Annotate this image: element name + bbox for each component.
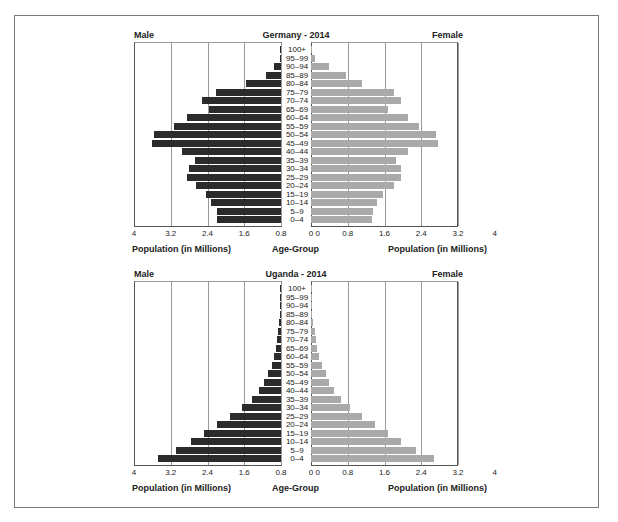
female-bar [311,421,375,428]
x-tick-male: 1.6 [239,468,250,477]
female-label: Female [432,269,463,279]
male-bar [191,438,281,445]
male-bar [280,311,281,318]
female-bar [311,438,401,445]
female-bar [311,413,362,420]
male-bar [277,336,281,343]
female-bar [311,387,334,394]
male-bar [264,379,281,386]
female-bar [311,362,322,369]
x-axis-label-age: Age-Group [272,483,319,493]
male-bar [279,319,281,326]
pyramid-chart-1: MaleUganda - 2014Female100+95–9990–9485–… [0,0,618,522]
male-bar [217,421,281,428]
male-bar [230,413,281,420]
x-tick-male: 0 [316,468,320,477]
male-label: Male [134,269,154,279]
male-bar [268,370,281,377]
male-bar [158,455,281,462]
male-bar [276,345,281,352]
female-bar [311,396,341,403]
male-bar [280,302,281,309]
gridline [171,282,172,465]
female-bar [311,430,388,437]
female-bar [311,447,416,454]
male-bar [259,387,281,394]
male-bar [278,328,281,335]
x-tick-male: 2.4 [202,468,213,477]
x-tick-female: 0.8 [342,468,353,477]
male-bar [272,362,281,369]
female-bar [311,455,434,462]
x-tick-male: 4 [132,468,136,477]
female-bar [311,370,326,377]
male-bar [274,353,281,360]
male-bar [252,396,281,403]
female-bar [311,353,319,360]
male-bar [176,447,281,454]
age-group-label: 0–4 [282,454,312,464]
x-tick-female: 0 [309,468,313,477]
male-bar [242,404,281,411]
x-tick-female: 2.4 [416,468,427,477]
male-bar [280,285,281,292]
chart-title: Uganda - 2014 [265,269,326,279]
female-bar [311,379,329,386]
x-axis-label-male: Population (in Millions) [132,483,231,493]
gridline [458,282,459,465]
x-tick-male: 3.2 [165,468,176,477]
x-axis-label-female: Population (in Millions) [388,483,487,493]
male-bar [280,294,281,301]
x-tick-female: 4 [493,468,497,477]
x-tick-female: 3.2 [452,468,463,477]
female-bar [311,404,350,411]
x-tick-female: 1.6 [379,468,390,477]
male-bar [204,430,281,437]
x-tick-male: 0.8 [275,468,286,477]
gridline [421,282,422,465]
